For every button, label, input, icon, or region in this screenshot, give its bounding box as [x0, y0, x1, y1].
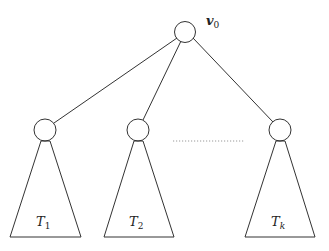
subtree-2-label: T2 — [129, 214, 143, 231]
subtree-1-label: T1 — [36, 214, 50, 231]
child-node-k — [269, 119, 291, 141]
subtree-k-label: Tk — [271, 214, 285, 231]
edge-root-child2 — [143, 41, 181, 120]
root-label: v0 — [206, 13, 220, 30]
root-node — [175, 22, 196, 43]
child-node-1 — [34, 119, 56, 141]
child-node-2 — [127, 119, 149, 141]
edge-root-child1 — [54, 38, 177, 123]
tree-diagram: v0 T1 T2 Tk — [0, 0, 329, 251]
edge-root-childk — [193, 38, 273, 122]
